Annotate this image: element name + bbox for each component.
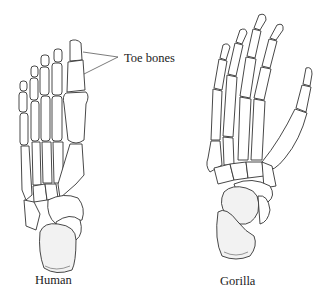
human-caption: Human xyxy=(35,273,72,288)
foot-skeleton-figure xyxy=(0,0,330,303)
human-foot-skeleton xyxy=(19,40,88,273)
gorilla-caption: Gorilla xyxy=(220,274,255,289)
gorilla-foot-skeleton xyxy=(207,14,312,259)
toe-bones-label: Toe bones xyxy=(124,51,175,66)
toe-bones-callout-lines xyxy=(83,52,118,74)
